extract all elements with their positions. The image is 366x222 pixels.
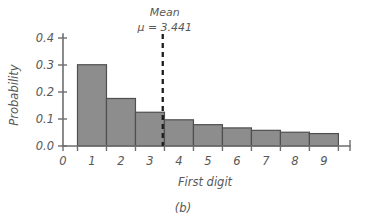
x-tick-label-1: 1 <box>88 154 95 168</box>
x-tick-label-7: 7 <box>262 154 270 168</box>
bar-digit-5 <box>193 125 222 146</box>
x-axis-tick-labels: 0123456789 <box>59 154 327 168</box>
x-tick-label-9: 9 <box>320 154 327 168</box>
benford-probability-bar-chart: 0.00.10.20.30.4 0123456789 Mean μ = 3.44… <box>0 0 366 222</box>
mean-annotation-label: Mean <box>150 6 180 19</box>
y-axis-title: Probability <box>7 64 21 125</box>
y-tick-label-0.3: 0.3 <box>36 58 54 72</box>
x-tick-label-2: 2 <box>117 154 124 168</box>
bar-digit-8 <box>280 132 309 146</box>
figure-panel: 0.00.10.20.30.4 0123456789 Mean μ = 3.44… <box>0 0 366 222</box>
y-tick-label-0.2: 0.2 <box>36 85 54 99</box>
bar-digit-4 <box>164 120 193 146</box>
y-tick-label-0.0: 0.0 <box>36 139 54 153</box>
x-tick-label-0: 0 <box>59 154 66 168</box>
x-tick-label-3: 3 <box>146 154 153 168</box>
figure-caption: (b) <box>175 201 191 215</box>
bar-digit-6 <box>222 128 251 146</box>
y-axis-tick-labels: 0.00.10.20.30.4 <box>36 31 54 153</box>
mean-annotation-value: μ = 3.441 <box>136 21 192 34</box>
bar-digit-2 <box>106 98 135 146</box>
y-tick-label-0.1: 0.1 <box>36 112 54 126</box>
x-tick-label-4: 4 <box>175 154 182 168</box>
bar-digit-3 <box>135 112 164 146</box>
bars-group <box>77 65 338 146</box>
bar-digit-1 <box>77 65 106 146</box>
x-tick-label-5: 5 <box>204 154 211 168</box>
x-tick-label-8: 8 <box>291 154 298 168</box>
bar-digit-9 <box>309 134 338 146</box>
x-tick-label-6: 6 <box>233 154 240 168</box>
y-tick-label-0.4: 0.4 <box>36 31 54 45</box>
bar-digit-7 <box>251 130 280 146</box>
x-axis-title: First digit <box>178 175 233 189</box>
